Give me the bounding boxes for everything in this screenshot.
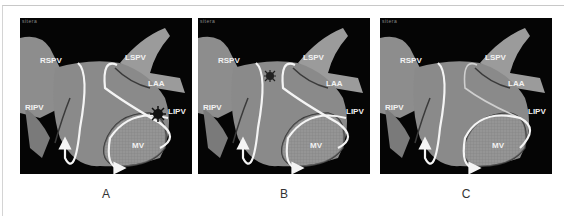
label-lipv: LIPV [346, 107, 364, 116]
panel-a-label: A [20, 187, 192, 201]
label-rspv: RSPV [218, 56, 240, 65]
label-laa: LAA [326, 79, 343, 88]
label-ripv: RIPV [25, 103, 44, 112]
label-ripv: RIPV [203, 103, 222, 112]
panel-c-image: RSPV RIPV LSPV LAA LIPV MV sitera [380, 18, 552, 174]
label-laa: LAA [148, 79, 165, 88]
label-mv: MV [492, 141, 505, 150]
label-laa: LAA [508, 79, 525, 88]
label-mv: MV [132, 141, 145, 150]
left-atrium-map-b: RSPV RIPV LSPV LAA LIPV MV [198, 18, 370, 174]
label-lspv: LSPV [303, 53, 325, 62]
corner-text: sitera [382, 18, 397, 24]
label-lspv: LSPV [485, 53, 507, 62]
label-lipv: LIPV [528, 107, 546, 116]
label-ripv: RIPV [385, 103, 404, 112]
corner-text: sitera [200, 18, 215, 24]
label-lipv: LIPV [168, 107, 186, 116]
corner-text: sitera [22, 18, 37, 24]
left-atrium-map-c: RSPV RIPV LSPV LAA LIPV MV [380, 18, 552, 174]
panel-c-label: C [380, 187, 552, 201]
label-lspv: LSPV [125, 53, 147, 62]
panel-b-label: B [198, 187, 370, 201]
label-mv: MV [310, 141, 323, 150]
left-atrium-map-a: RSPV RIPV LSPV LAA LIPV MV [20, 18, 192, 174]
label-rspv: RSPV [40, 56, 62, 65]
panel-a-image: RSPV RIPV LSPV LAA LIPV MV sitera [20, 18, 192, 174]
panel-b-image: RSPV RIPV LSPV LAA LIPV MV sitera [198, 18, 370, 174]
label-rspv: RSPV [400, 56, 422, 65]
